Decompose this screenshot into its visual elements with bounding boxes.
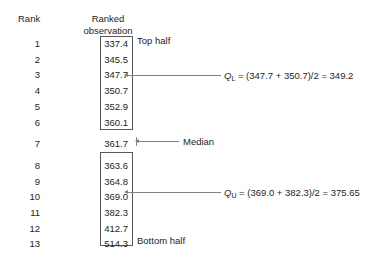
table-row: 1 337.4 xyxy=(0,36,380,52)
table-row: 8 363.6 xyxy=(0,158,380,174)
rank-value: 9 xyxy=(0,174,40,190)
rank-value: 6 xyxy=(0,115,40,131)
observation-value: 350.7 xyxy=(86,83,128,99)
bottom-half-label: Bottom half xyxy=(137,235,185,246)
rank-value: 10 xyxy=(0,189,40,205)
lower-quartile-leader-line xyxy=(126,75,221,76)
table-row: 4 350.7 xyxy=(0,83,380,99)
rank-value: 3 xyxy=(0,67,40,83)
upper-quartile-formula: = (369.0 + 382.3)/2 = 375.65 xyxy=(236,187,359,198)
lower-quartile-subscript: L xyxy=(231,75,235,82)
observation-value: 347.7 xyxy=(86,67,128,83)
table-row: 11 382.3 xyxy=(0,205,380,221)
column-header-line-2: observation xyxy=(82,25,134,37)
rank-value: 8 xyxy=(0,158,40,174)
observation-value: 337.4 xyxy=(86,36,128,52)
observation-value: 360.1 xyxy=(86,115,128,131)
upper-quartile-subscript: U xyxy=(231,192,236,199)
rank-value: 11 xyxy=(0,205,40,221)
observation-value: 361.7 xyxy=(86,136,128,152)
table-row: 12 412.7 xyxy=(0,221,380,237)
median-annotation: Median xyxy=(183,136,214,147)
table-row: 5 352.9 xyxy=(0,99,380,115)
observation-value: 352.9 xyxy=(86,99,128,115)
ranked-observations-figure: Rank Ranked observation 1 337.4 2 345.5 … xyxy=(0,0,380,258)
rank-value: 4 xyxy=(0,83,40,99)
column-header-rank: Rank xyxy=(18,13,40,25)
observation-value: 412.7 xyxy=(86,221,128,237)
table-row: 6 360.1 xyxy=(0,115,380,131)
rank-value: 12 xyxy=(0,221,40,237)
upper-quartile-annotation: QU = (369.0 + 382.3)/2 = 375.65 xyxy=(224,187,360,199)
rank-value: 1 xyxy=(0,36,40,52)
observation-value: 364.8 xyxy=(86,174,128,190)
table-row: 2 345.5 xyxy=(0,52,380,68)
observation-value: 363.6 xyxy=(86,158,128,174)
lower-quartile-formula: = (347.7 + 350.7)/2 = 349.2 xyxy=(235,70,353,81)
rank-value: 7 xyxy=(0,136,40,152)
top-half-label: Top half xyxy=(137,35,170,46)
rank-value: 5 xyxy=(0,99,40,115)
column-header-line-1: Ranked xyxy=(92,13,125,24)
observation-value: 369.0 xyxy=(86,189,128,205)
observation-value: 345.5 xyxy=(86,52,128,68)
median-leader-line xyxy=(137,141,179,142)
rank-value: 13 xyxy=(0,236,40,252)
observation-value: 514.3 xyxy=(86,236,128,252)
upper-quartile-leader-line xyxy=(126,192,221,193)
column-header-ranked-observation: Ranked observation xyxy=(82,13,134,36)
lower-quartile-annotation: QL = (347.7 + 350.7)/2 = 349.2 xyxy=(224,70,353,82)
observation-value: 382.3 xyxy=(86,205,128,221)
rank-value: 2 xyxy=(0,52,40,68)
table-row: 13 514.3 xyxy=(0,236,380,252)
